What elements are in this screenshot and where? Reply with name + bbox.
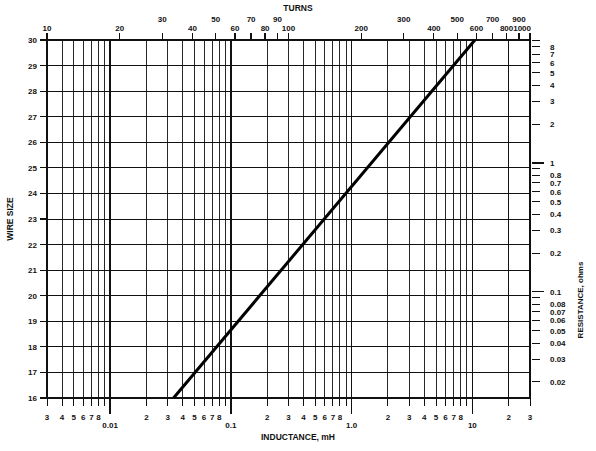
bottom-tick-label-inductance: 7 [210,413,215,422]
right-tick-label-resistance: 0.4 [550,210,562,219]
right-tick-label-resistance: 3 [550,97,555,106]
bottom-tick-label-inductance: 5 [434,413,439,422]
bottom-tick-label-inductance: 3 [45,413,50,422]
right-tick-label-resistance: 0.6 [550,188,562,197]
top-tick-label-turns: 800 [500,24,514,33]
bottom-tick-label-inductance: 8 [217,413,222,422]
top-tick-label-turns: 90 [273,15,282,24]
right-tick-label-resistance: 0.1 [550,288,562,297]
right-tick-label-resistance: 5 [550,69,555,78]
bottom-tick-label-inductance: 2 [144,413,149,422]
left-axis-title-wire-size: WIRE SIZE [5,197,15,241]
left-tick-label-wire-size: 20 [28,292,37,301]
left-tick-label-wire-size: 21 [28,266,37,275]
top-axis-title-turns: TURNS [283,3,313,13]
right-tick-label-resistance: 0.02 [550,378,566,387]
top-tick-label-turns: 600 [470,24,484,33]
top-tick-label-turns: 200 [355,24,369,33]
right-tick-label-resistance: 0.04 [550,339,566,348]
figure-background [0,0,596,451]
bottom-tick-label-inductance: 4 [301,413,306,422]
right-tick-label-resistance: 0.05 [550,327,566,336]
right-axis-title-resistance: RESISTANCE, ohms [576,261,585,338]
right-tick-label-resistance: 6 [550,59,555,68]
bottom-decade-label-inductance: 0.1 [225,421,237,430]
bottom-tick-label-inductance: 6 [323,413,328,422]
bottom-tick-label-inductance: 4 [422,413,427,422]
top-tick-label-turns: 20 [115,24,124,33]
bottom-tick-label-inductance: 2 [265,413,270,422]
top-tick-label-turns: 500 [451,15,465,24]
bottom-tick-label-inductance: 2 [507,413,512,422]
right-tick-label-resistance: 0.3 [550,226,562,235]
right-tick-label-resistance: 0.2 [550,249,562,258]
bottom-decade-label-inductance: 0.01 [102,421,118,430]
left-tick-label-wire-size: 17 [28,368,37,377]
bottom-tick-label-inductance: 6 [202,413,207,422]
left-tick-label-wire-size: 18 [28,343,37,352]
bottom-tick-label-inductance: 4 [181,413,186,422]
top-tick-label-turns: 60 [230,24,239,33]
right-tick-label-resistance: 4 [550,81,555,90]
left-tick-label-wire-size: 24 [28,189,37,198]
bottom-tick-label-inductance: 3 [407,413,412,422]
left-tick-label-wire-size: 29 [28,62,37,71]
bottom-tick-label-inductance: 5 [192,413,197,422]
top-tick-label-turns: 40 [188,24,197,33]
bottom-tick-label-inductance: 8 [96,413,101,422]
top-tick-label-turns: 30 [158,15,167,24]
left-tick-label-wire-size: 25 [28,164,37,173]
top-tick-label-turns: 100 [282,24,296,33]
bottom-tick-label-inductance: 3 [166,413,171,422]
top-tick-label-turns: 1000 [513,24,531,33]
bottom-tick-label-inductance: 6 [443,413,448,422]
nomogram-figure: 1020304050607080901002003004005006007008… [0,0,596,451]
left-tick-label-wire-size: 16 [28,394,37,403]
right-tick-label-resistance: 0.06 [550,316,566,325]
top-tick-label-turns: 80 [261,24,270,33]
top-tick-label-turns: 700 [486,15,500,24]
bottom-axis-title-inductance: INDUCTANCE, mH [261,432,335,442]
nomogram-chart: 1020304050607080901002003004005006007008… [0,0,596,451]
bottom-tick-label-inductance: 7 [331,413,336,422]
left-tick-label-wire-size: 27 [28,113,37,122]
bottom-tick-label-inductance: 4 [60,413,65,422]
right-tick-label-resistance: 0.03 [550,355,566,364]
bottom-tick-label-inductance: 3 [286,413,291,422]
left-tick-label-wire-size: 30 [28,36,37,45]
left-tick-label-wire-size: 26 [28,138,37,147]
right-tick-label-resistance: 1 [550,159,555,168]
bottom-tick-label-inductance: 8 [458,413,463,422]
bottom-tick-label-inductance: 5 [72,413,77,422]
bottom-tick-label-inductance: 8 [338,413,343,422]
bottom-decade-label-inductance: 10 [468,421,477,430]
bottom-tick-label-inductance: 6 [81,413,86,422]
right-tick-label-resistance: 0.5 [550,198,562,207]
bottom-tick-label-inductance: 7 [89,413,94,422]
top-tick-label-turns: 900 [512,15,526,24]
right-tick-label-resistance: 2 [550,120,555,129]
top-tick-label-turns: 10 [43,24,52,33]
top-tick-label-turns: 50 [211,15,220,24]
top-tick-label-turns: 70 [247,15,256,24]
left-tick-label-wire-size: 28 [28,87,37,96]
top-tick-label-turns: 400 [427,24,441,33]
bottom-tick-label-inductance: 7 [451,413,456,422]
bottom-decade-label-inductance: 1.0 [346,421,358,430]
top-tick-label-turns: 300 [397,15,411,24]
bottom-tick-label-inductance: 3 [528,413,533,422]
left-tick-label-wire-size: 23 [28,215,37,224]
bottom-tick-label-inductance: 5 [313,413,318,422]
left-tick-label-wire-size: 22 [28,241,37,250]
left-tick-label-wire-size: 19 [28,317,37,326]
bottom-tick-label-inductance: 2 [386,413,391,422]
